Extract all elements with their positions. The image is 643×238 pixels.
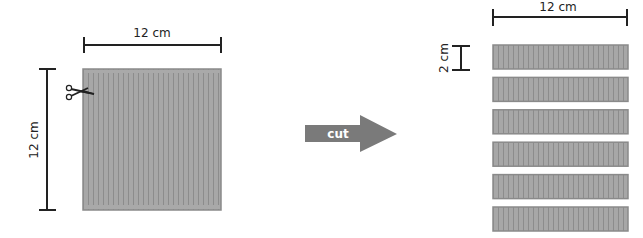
square-height-label: 12 cm — [27, 121, 41, 158]
square-height-dimension: 12 cm — [27, 69, 56, 210]
strip — [493, 142, 628, 166]
strip-height-dimension: 2 cm — [437, 43, 470, 73]
strip — [493, 110, 628, 134]
strip — [493, 175, 628, 199]
strips-width-dimension: 12 cm — [493, 0, 627, 26]
square-width-label: 12 cm — [133, 26, 170, 40]
strip-height-label: 2 cm — [437, 43, 451, 73]
cut-arrow-label: cut — [327, 127, 349, 141]
strip — [493, 207, 628, 231]
strip — [493, 77, 628, 101]
square-width-dimension: 12 cm — [84, 26, 221, 53]
square-sheet — [83, 69, 221, 210]
strips-width-label: 12 cm — [539, 0, 576, 14]
strips-group — [493, 45, 628, 231]
strip — [493, 45, 628, 69]
diagram-canvas: 12 cm 12 cm cut 12 cm 2 cm — [0, 0, 643, 238]
cut-arrow: cut — [305, 115, 397, 152]
